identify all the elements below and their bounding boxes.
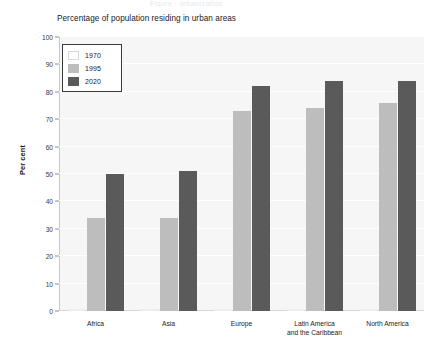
legend-label-2020: 2020 — [85, 78, 101, 85]
y-axis-tick-label: 90 — [13, 61, 53, 68]
y-axis-tick-label: 30 — [13, 225, 53, 232]
legend-label-1970: 1970 — [85, 52, 101, 59]
y-axis-tick-label: 60 — [13, 143, 53, 150]
x-axis-category-label: North America — [351, 319, 424, 328]
y-axis-tick-label: 50 — [13, 171, 53, 178]
legend-label-1995: 1995 — [85, 65, 101, 72]
x-axis-category-label: Africa — [59, 319, 132, 328]
x-axis-category-label: Europe — [205, 319, 278, 328]
legend-swatch-1970 — [68, 51, 79, 60]
cropped-header-text: Figure · urbanization — [150, 0, 390, 7]
y-axis-tick-mark — [55, 146, 59, 147]
bar-2020 — [252, 86, 270, 311]
y-axis-tick-label: 20 — [13, 253, 53, 260]
y-axis-tick-label: 100 — [13, 34, 53, 41]
y-axis-tick-label: 10 — [13, 280, 53, 287]
bar-1995 — [233, 111, 251, 311]
bar-1970 — [287, 309, 305, 311]
bar-group — [351, 37, 424, 311]
bar-2020 — [106, 174, 124, 311]
x-axis-category-label: Latin America and the Caribbean — [278, 319, 351, 337]
y-axis-tick-mark — [55, 119, 59, 120]
bar-1995 — [160, 218, 178, 311]
legend-swatch-2020 — [68, 77, 79, 86]
legend-item-2020: 2020 — [68, 75, 121, 88]
bar-2020 — [179, 171, 197, 311]
bar-2020 — [398, 81, 416, 311]
bar-1995 — [379, 103, 397, 311]
y-axis-tick-label: 40 — [13, 198, 53, 205]
y-axis-tick-label: 0 — [13, 308, 53, 315]
legend-item-1995: 1995 — [68, 62, 121, 75]
bar-1970 — [68, 309, 86, 311]
x-axis-category-label: Asia — [132, 319, 205, 328]
y-axis-tick-label: 80 — [13, 88, 53, 95]
bar-group — [132, 37, 205, 311]
y-axis-tick-label: 70 — [13, 116, 53, 123]
bar-1995 — [306, 108, 324, 311]
legend-item-1970: 1970 — [68, 49, 121, 62]
bar-1995 — [87, 218, 105, 311]
y-axis-tick-mark — [55, 64, 59, 65]
bar-group — [278, 37, 351, 311]
y-axis-tick-mark — [55, 283, 59, 284]
y-axis-tick-mark — [55, 228, 59, 229]
y-axis-tick-mark — [55, 311, 59, 312]
y-axis-tick-mark — [55, 174, 59, 175]
y-axis-tick-mark — [55, 201, 59, 202]
bar-1970 — [141, 309, 159, 311]
chart-title: Percentage of population residing in urb… — [57, 14, 236, 23]
bar-1970 — [360, 309, 378, 311]
y-axis-tick-mark — [55, 37, 59, 38]
legend-swatch-1995 — [68, 64, 79, 73]
y-axis-tick-mark — [55, 91, 59, 92]
bar-1970 — [214, 309, 232, 311]
chart-root: Figure · urbanization Percentage of popu… — [0, 0, 429, 353]
legend: 1970 1995 2020 — [62, 44, 122, 92]
bar-2020 — [325, 81, 343, 311]
bar-group — [205, 37, 278, 311]
y-axis-tick-mark — [55, 256, 59, 257]
